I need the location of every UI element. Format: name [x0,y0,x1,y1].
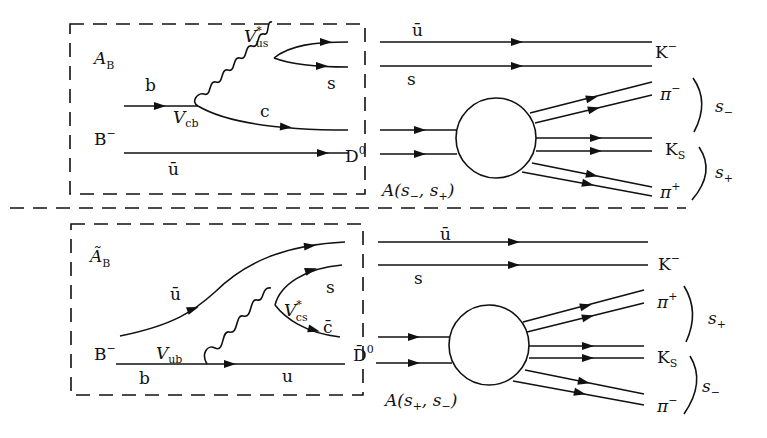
ubar-quark-label: ū [170,284,181,304]
b-meson-label: B− [94,127,116,149]
arrow-icon [581,179,594,189]
u-quark-label: u [282,366,293,386]
arrow-icon [280,123,293,132]
feynman-diagram: AB b Vcb V*us c s B− ū D0 ū s K− π− [0,0,767,438]
b-meson-label: B− [94,342,116,364]
s-plus-bracket [692,147,706,200]
kaon-label: K− [658,252,680,274]
arrow-icon [511,62,523,70]
cbar-quark-label: c̄ [323,317,333,337]
w-decay-s-line [274,58,348,67]
arrow-icon [577,377,590,387]
arrow-icon [304,241,317,250]
arrow-icon [408,333,420,341]
w-decay-upper-line [274,42,348,58]
ubar-out-label: ū [440,224,451,244]
arrow-icon [320,38,332,46]
bottom-box-frame [71,224,363,395]
ubar-quark-line [120,242,345,336]
arrow-icon [582,342,594,350]
amplitude-label: A(s+, s−) [383,390,457,413]
arrow-icon [408,359,420,367]
ubar-out-label: ū [412,20,423,40]
arrow-icon [590,134,602,142]
b-quark-label: b [139,368,150,388]
vub-label: Vub [156,343,182,366]
arrow-icon [579,301,593,312]
s-upper-label: s+ [708,308,726,331]
vcs-label: V*cs [284,298,308,324]
arrow-icon [154,102,166,110]
arrow-icon [414,150,426,158]
arrow-icon [590,147,602,155]
pi-lower-label: π− [656,394,677,416]
arrow-icon [582,354,594,362]
c-quark-line [198,106,348,130]
vus-label: V*us [244,24,269,50]
s-out-label: s [414,268,423,288]
decay-blob [449,305,529,385]
c-quark-label: c [260,101,270,121]
s-lower-label: s− [702,376,720,399]
s-quark-label: s [327,73,336,93]
ks-label: KS [657,347,677,370]
s-minus-bracket [693,78,702,132]
ks-label: KS [665,139,685,162]
d0-label: D0 [345,144,366,166]
arrow-icon [585,93,599,104]
arrow-icon [587,104,601,115]
arrow-icon [316,62,328,70]
s-minus-bracket [684,356,697,414]
arrow-icon [508,261,520,269]
arrow-icon [224,360,236,368]
arrow-icon [414,126,426,134]
arrow-icon [307,325,321,336]
top-box-label: AB [92,48,114,72]
arrow-icon [581,312,595,323]
arrow-icon [585,170,598,180]
s-lower-label: s+ [715,162,733,185]
bottom-panel: ÃB ū Vub V*cs s c̄ B− b u D̄0 ū s K− [71,224,726,416]
arrow-icon [508,238,520,246]
pi-lower-label: π+ [659,180,680,202]
s-plus-bracket [684,286,693,342]
decay-blob [456,98,536,178]
pi-upper-label: π− [659,82,680,104]
s-quark-label: s [326,277,335,297]
kaon-label: K− [655,40,677,62]
ubar-spectator-label: ū [168,159,179,179]
b-quark-label: b [145,75,156,95]
amplitude-label: A(s−, s+) [380,180,454,203]
pi-upper-label: π+ [656,290,677,312]
s-upper-label: s− [715,96,733,119]
d0bar-label: D̄0 [353,343,374,365]
top-box-frame [70,24,365,194]
vcb-label: Vcb [173,107,198,130]
w-boson-line [205,288,271,364]
s-out-label: s [407,69,416,89]
top-panel: AB b Vcb V*us c s B− ū D0 ū s K− π− [70,20,733,203]
arrow-icon [317,149,329,157]
arrow-icon [511,38,523,46]
arrow-icon [573,388,586,398]
bottom-box-label: ÃB [88,246,110,270]
